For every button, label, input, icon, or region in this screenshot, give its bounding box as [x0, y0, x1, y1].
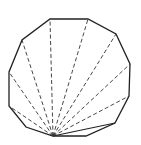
dashed-diagonal-2 — [53, 34, 116, 136]
solid-diagonal-0 — [53, 123, 115, 136]
dashed-diagonal-4 — [50, 19, 53, 136]
dashed-diagonal-5 — [22, 40, 53, 136]
dashed-diagonal-1 — [53, 64, 130, 136]
dashed-diagonal-7 — [9, 106, 53, 136]
polygon-outline — [9, 19, 130, 136]
dashed-diagonal-0 — [53, 96, 129, 136]
dodecagon-diagram — [0, 0, 141, 145]
dashed-diagonal-6 — [9, 72, 53, 136]
dashed-diagonal-3 — [53, 19, 88, 136]
